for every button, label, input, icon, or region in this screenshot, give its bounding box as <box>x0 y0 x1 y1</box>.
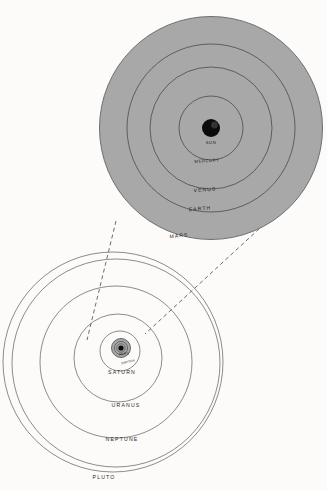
solar-system-figure: SUN MERCURY VENUS EARTH MARS MA <box>0 0 327 491</box>
sun-highlight-detail <box>211 122 218 129</box>
label-sun-detail: SUN <box>206 140 217 145</box>
leader-line-left <box>87 221 116 340</box>
orbit-uranus <box>40 286 192 438</box>
detail-view-panel: SUN MERCURY VENUS EARTH MARS <box>100 17 323 240</box>
label-uranus: URANUS <box>112 402 141 408</box>
label-jupiter-overview: JUPITER <box>121 358 136 365</box>
label-saturn: SATURN <box>108 369 136 375</box>
sun-body-overview <box>118 345 123 350</box>
label-pluto: PLUTO <box>93 474 116 480</box>
label-mars-overview: MARS <box>119 351 129 356</box>
orbit-saturn <box>74 314 162 402</box>
label-neptune: NEPTUNE <box>106 436 139 442</box>
label-mars-detail: MARS <box>169 231 188 239</box>
overview-panel: MARS JUPITER SATURN URANUS NEPTUNE PLUTO <box>3 252 223 480</box>
sun-body-detail <box>202 119 220 137</box>
